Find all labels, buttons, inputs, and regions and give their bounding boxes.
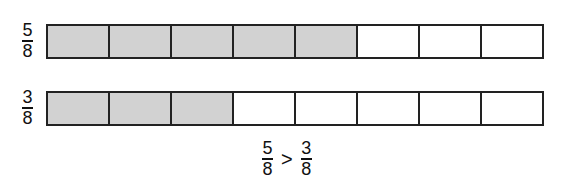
empty-cell (482, 26, 542, 57)
shaded-cell (172, 93, 234, 124)
shaded-cell (110, 93, 172, 124)
comparison-right-fraction: 3 8 (301, 140, 312, 178)
empty-cell (358, 26, 420, 57)
shaded-cell (172, 26, 234, 57)
empty-cell (358, 93, 420, 124)
shaded-cell (48, 26, 110, 57)
empty-cell (420, 26, 482, 57)
empty-cell (482, 93, 542, 124)
denominator: 8 (22, 110, 32, 127)
denominator: 8 (262, 161, 272, 178)
numerator: 5 (22, 22, 32, 39)
shaded-cell (48, 93, 110, 124)
fraction-bar-row-top (46, 24, 544, 59)
shaded-cell (234, 26, 296, 57)
fraction-bar-row-bottom (46, 91, 544, 126)
numerator: 3 (22, 89, 32, 106)
fraction-label-bottom: 3 8 (22, 89, 33, 127)
comparison-left-fraction: 5 8 (262, 140, 273, 178)
comparison: 5 8 > 3 8 (262, 140, 312, 178)
denominator: 8 (22, 43, 32, 60)
shaded-cell (110, 26, 172, 57)
empty-cell (234, 93, 296, 124)
shaded-cell (296, 26, 358, 57)
numerator: 3 (301, 140, 311, 157)
denominator: 8 (301, 161, 311, 178)
comparison-operator: > (281, 148, 293, 171)
fraction-label-top: 5 8 (22, 22, 33, 60)
empty-cell (420, 93, 482, 124)
empty-cell (296, 93, 358, 124)
numerator: 5 (262, 140, 272, 157)
